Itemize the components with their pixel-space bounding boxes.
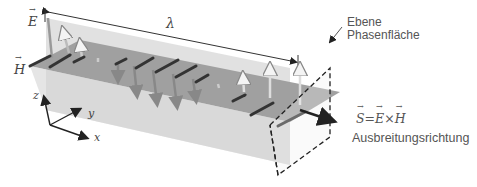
- axis-x-label: x: [94, 131, 100, 144]
- poynting-vector-label: S=E×H: [356, 111, 406, 126]
- wavelength-label: λ: [166, 15, 175, 31]
- phase-plane-label: Ebene Phasenfläche: [347, 16, 420, 42]
- axis-y-label: y: [88, 107, 94, 120]
- axis-z-label: z: [33, 89, 39, 102]
- e-field-label: E: [28, 14, 38, 29]
- propagation-direction-label: Ausbreitungsrichtung: [352, 131, 469, 145]
- h-field-label: H: [14, 62, 25, 77]
